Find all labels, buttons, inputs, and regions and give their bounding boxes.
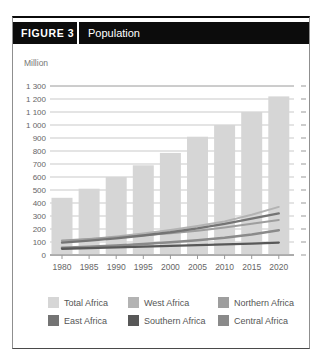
figure-box: FIGURE 3 Population Million 010020030040… xyxy=(12,16,310,349)
bar-1990 xyxy=(106,177,127,255)
y-tick-label-500: 500 xyxy=(33,186,47,195)
legend-label-central-africa: Central Africa xyxy=(234,316,288,326)
legend-swatch-northern-africa xyxy=(218,297,229,308)
y-tick-label-600: 600 xyxy=(33,173,47,182)
x-tick-label-1995: 1995 xyxy=(134,262,153,272)
legend-item-east-africa: East Africa xyxy=(48,315,107,326)
legend-label-east-africa: East Africa xyxy=(64,316,107,326)
y-tick-label-900: 900 xyxy=(33,134,47,143)
legend-swatch-west-africa xyxy=(128,297,139,308)
bar-1985 xyxy=(79,189,100,255)
y-tick-label-100: 100 xyxy=(33,238,47,247)
y-tick-label-700: 700 xyxy=(33,160,47,169)
x-tick-label-2010: 2010 xyxy=(215,262,234,272)
y-tick-label-1200: 1 200 xyxy=(26,95,47,104)
y-tick-label-1300: 1 300 xyxy=(26,82,47,91)
legend-item-central-africa: Central Africa xyxy=(218,315,288,326)
legend-label-total-africa: Total Africa xyxy=(64,298,108,308)
legend-swatch-total-africa xyxy=(48,297,59,308)
y-tick-label-1100: 1 100 xyxy=(26,108,47,117)
x-tick-label-1985: 1985 xyxy=(80,262,99,272)
legend-swatch-east-africa xyxy=(48,315,59,326)
bar-2005 xyxy=(187,137,208,255)
x-tick-label-1990: 1990 xyxy=(107,262,126,272)
legend-item-southern-africa: Southern Africa xyxy=(128,315,206,326)
x-tick-label-2000: 2000 xyxy=(161,262,180,272)
x-tick-label-2020: 2020 xyxy=(269,262,288,272)
bar-1995 xyxy=(133,165,154,255)
legend-swatch-central-africa xyxy=(218,315,229,326)
bar-2000 xyxy=(160,153,181,255)
legend-item-west-africa: West Africa xyxy=(128,297,189,308)
y-tick-label-300: 300 xyxy=(33,212,47,221)
bar-2010 xyxy=(214,125,235,255)
y-tick-label-1000: 1 000 xyxy=(26,121,47,130)
y-tick-label-0: 0 xyxy=(42,251,47,260)
legend-label-northern-africa: Northern Africa xyxy=(234,298,294,308)
legend-label-west-africa: West Africa xyxy=(144,298,189,308)
y-tick-label-400: 400 xyxy=(33,199,47,208)
x-tick-label-1980: 1980 xyxy=(53,262,72,272)
legend-swatch-southern-africa xyxy=(128,315,139,326)
legend-item-northern-africa: Northern Africa xyxy=(218,297,294,308)
x-tick-label-2005: 2005 xyxy=(188,262,207,272)
legend-item-total-africa: Total Africa xyxy=(48,297,108,308)
y-tick-label-200: 200 xyxy=(33,225,47,234)
x-tick-label-2015: 2015 xyxy=(242,262,261,272)
y-tick-label-800: 800 xyxy=(33,147,47,156)
legend-label-southern-africa: Southern Africa xyxy=(144,316,206,326)
